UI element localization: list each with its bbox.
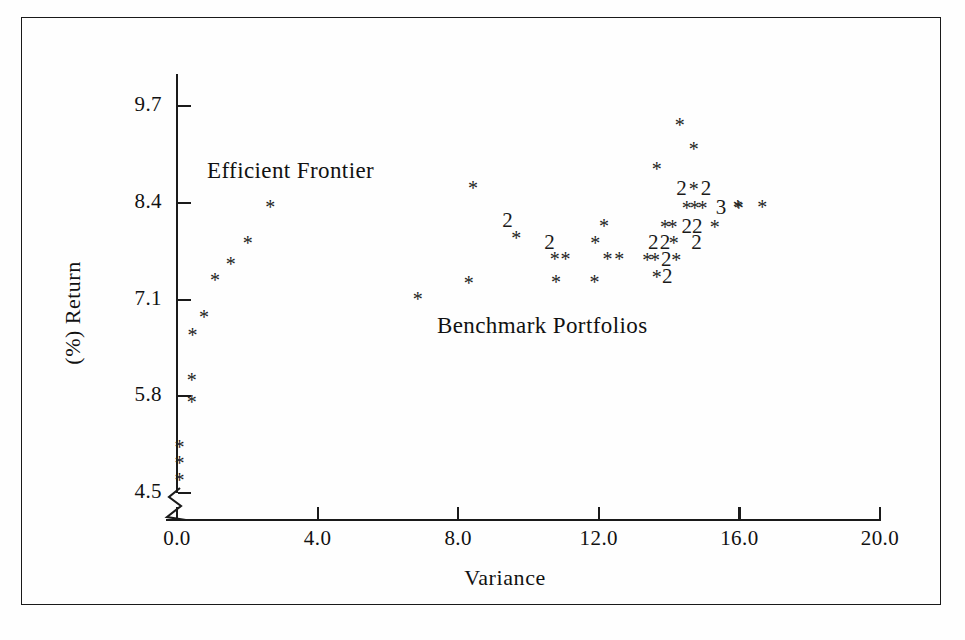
x-tick-label: 16.0 [704, 527, 774, 549]
data-point-count-marker: 2 [662, 267, 673, 286]
x-axis-title-text: Variance [464, 565, 546, 591]
data-point-count-marker: 2 [691, 232, 702, 251]
data-point-marker: * [210, 271, 220, 290]
data-point-marker: * [603, 249, 613, 268]
y-tick-label: 7.1 [110, 288, 162, 309]
y-tick-mark [178, 492, 191, 494]
plot-area: 4.55.87.18.49.7 0.04.08.012.016.020.0 (%… [0, 0, 965, 640]
data-point-marker: * [689, 140, 699, 159]
x-axis-line [166, 519, 881, 521]
benchmark-portfolios-label: Benchmark Portfolios [437, 313, 648, 339]
data-point-marker: * [590, 233, 600, 252]
data-point-marker: * [590, 272, 600, 291]
data-point-marker: * [511, 229, 521, 248]
data-point-marker: * [671, 251, 681, 270]
data-point-marker: * [652, 268, 662, 287]
y-tick-label: 4.5 [110, 481, 162, 502]
y-tick-label: 5.8 [110, 384, 162, 405]
data-point-marker: * [551, 273, 561, 292]
y-tick-mark [178, 105, 191, 107]
data-point-marker: * [464, 274, 474, 293]
data-point-marker: * [614, 249, 624, 268]
data-point-count-marker: 2 [701, 179, 712, 198]
y-axis-line [176, 74, 178, 493]
y-tick-mark [178, 299, 191, 301]
x-tick-label: 20.0 [845, 527, 915, 549]
x-tick-label: 4.0 [283, 527, 353, 549]
data-point-marker: * [733, 198, 743, 217]
data-point-marker: * [675, 115, 685, 134]
data-point-marker: * [174, 437, 184, 456]
x-tick-label: 8.0 [423, 527, 493, 549]
x-tick-label: 0.0 [142, 527, 212, 549]
x-axis-title: Variance [0, 565, 965, 591]
chart-figure: 4.55.87.18.49.7 0.04.08.012.016.020.0 (%… [0, 0, 965, 640]
efficient-frontier-label: Efficient Frontier [207, 158, 374, 184]
data-point-marker: * [265, 198, 275, 217]
data-point-marker: * [199, 307, 209, 326]
data-point-marker: * [550, 249, 560, 268]
x-tick-mark [457, 507, 459, 520]
data-point-marker: * [468, 178, 478, 197]
x-tick-label: 12.0 [564, 527, 634, 549]
data-point-marker: * [560, 249, 570, 268]
data-point-marker: * [757, 198, 767, 217]
data-point-marker: * [599, 216, 609, 235]
x-tick-mark [176, 507, 178, 520]
data-point-marker: * [187, 393, 197, 412]
data-point-count-marker: 2 [676, 179, 687, 198]
data-point-count-marker: 3 [716, 197, 727, 216]
data-point-marker: * [710, 217, 720, 236]
data-point-marker: * [243, 233, 253, 252]
y-tick-label: 9.7 [110, 94, 162, 115]
data-point-marker: * [187, 326, 197, 345]
y-axis-title: (%) Return [60, 233, 86, 393]
data-point-marker: * [187, 370, 197, 389]
data-point-marker: * [413, 289, 423, 308]
x-tick-mark [317, 507, 319, 520]
x-tick-mark [598, 507, 600, 520]
data-point-marker: * [226, 254, 236, 273]
x-tick-mark [879, 507, 881, 520]
x-tick-mark [738, 507, 740, 520]
data-point-marker: * [652, 159, 662, 178]
y-tick-mark [178, 202, 191, 204]
y-tick-label: 8.4 [110, 191, 162, 212]
